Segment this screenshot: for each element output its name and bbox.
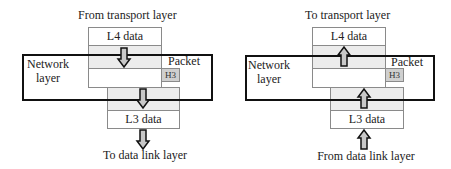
l3-data-cell: L3 data: [330, 110, 404, 129]
diagram-receiving: To transport layer L4 data H3 L3 data Ne…: [0, 0, 225, 169]
arrow-up-icon: [337, 47, 351, 67]
bottom-caption: From data link layer: [316, 149, 416, 164]
layer-label-line2: layer: [247, 72, 291, 86]
arrow-up-icon: [357, 130, 371, 150]
top-caption: To transport layer: [305, 8, 390, 23]
l4-data-cell: L4 data: [312, 27, 386, 46]
network-layer-label: Network layer: [247, 58, 291, 86]
arrow-up-icon: [357, 89, 371, 109]
layer-label-line1: Network: [247, 58, 291, 72]
packet-label: Packet: [391, 55, 423, 70]
